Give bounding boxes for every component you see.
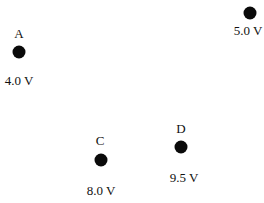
point-d-dot <box>175 141 188 154</box>
point-d-voltage: 9.5 V <box>170 171 199 184</box>
point-a-voltage: 4.0 V <box>5 74 34 87</box>
point-a-label: A <box>14 27 23 40</box>
point-d-label: D <box>176 122 185 135</box>
point-c-dot <box>95 154 108 167</box>
point-a-dot <box>13 46 26 59</box>
point-c-voltage: 8.0 V <box>87 184 116 197</box>
point-b-voltage: 5.0 V <box>234 24 263 37</box>
point-c-label: C <box>96 134 105 147</box>
point-b-label: B <box>246 0 255 2</box>
point-b-dot <box>244 7 257 20</box>
